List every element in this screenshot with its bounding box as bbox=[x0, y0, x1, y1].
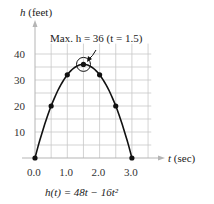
x-axis-arrow-icon bbox=[158, 156, 165, 161]
x-tick-labels: 0.01.02.03.0 bbox=[27, 166, 138, 178]
data-point bbox=[113, 103, 118, 108]
data-point bbox=[32, 155, 37, 160]
y-tick-labels: 10203040 bbox=[14, 48, 26, 138]
y-axis-arrow-icon bbox=[33, 20, 38, 27]
data-point bbox=[49, 103, 54, 108]
x-axis-label: t (sec) bbox=[168, 152, 196, 165]
svg-text:10: 10 bbox=[14, 126, 26, 138]
data-point bbox=[129, 155, 134, 160]
y-axis-label: h (feet) bbox=[20, 6, 52, 19]
svg-text:40: 40 bbox=[14, 48, 26, 60]
max-annotation: Max. h = 36 (t = 1.5) bbox=[50, 32, 143, 45]
data-point bbox=[97, 72, 102, 77]
svg-text:20: 20 bbox=[14, 100, 26, 112]
svg-text:0.0: 0.0 bbox=[27, 166, 41, 178]
data-point bbox=[81, 62, 86, 67]
data-point bbox=[65, 72, 70, 77]
svg-text:2.0: 2.0 bbox=[92, 166, 106, 178]
formula-label: h(t) = 48t − 16t² bbox=[45, 186, 119, 199]
svg-text:3.0: 3.0 bbox=[124, 166, 138, 178]
svg-text:30: 30 bbox=[14, 74, 26, 86]
svg-text:1.0: 1.0 bbox=[59, 166, 73, 178]
height-vs-time-chart: h (feet) t (sec) 10203040 0.01.02.03.0 M… bbox=[0, 0, 214, 204]
